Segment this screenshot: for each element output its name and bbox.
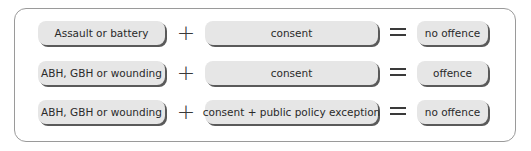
plus-symbol: +	[177, 20, 195, 45]
plus-icon: +	[176, 59, 196, 85]
offence-type-label: ABH, GBH or wounding	[41, 106, 162, 118]
plus-icon: +	[176, 19, 196, 45]
condition-box: consent	[205, 21, 378, 45]
result-box: offence	[417, 61, 488, 85]
plus-icon: +	[176, 98, 196, 124]
condition-box: consent	[205, 61, 378, 85]
condition-label: consent	[271, 67, 313, 79]
condition-box: consent + public policy exception	[205, 100, 378, 124]
condition-label: consent	[271, 27, 313, 39]
equals-icon	[388, 98, 408, 124]
condition-label: consent + public policy exception	[203, 106, 381, 118]
equation-row-1: Assault or battery + consent no offence	[0, 21, 531, 45]
result-label: offence	[433, 67, 472, 79]
plus-symbol: +	[177, 60, 195, 85]
offence-type-box: Assault or battery	[38, 21, 165, 45]
offence-type-label: Assault or battery	[55, 27, 149, 39]
result-box: no offence	[417, 21, 488, 45]
offence-type-box: ABH, GBH or wounding	[38, 100, 165, 124]
result-box: no offence	[417, 100, 488, 124]
equals-icon	[388, 59, 408, 85]
plus-symbol: +	[177, 99, 195, 124]
equation-row-3: ABH, GBH or wounding + consent + public …	[0, 100, 531, 124]
equals-icon	[388, 19, 408, 45]
result-label: no offence	[425, 27, 480, 39]
result-label: no offence	[425, 106, 480, 118]
offence-type-label: ABH, GBH or wounding	[41, 67, 162, 79]
offence-type-box: ABH, GBH or wounding	[38, 61, 165, 85]
equation-row-2: ABH, GBH or wounding + consent offence	[0, 61, 531, 85]
